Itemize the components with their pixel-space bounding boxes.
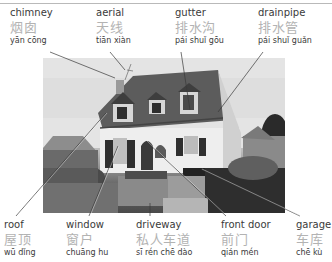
house-photo <box>43 58 285 213</box>
label-chinese: 天线 <box>96 21 131 37</box>
label-pinyin: chē kù <box>296 249 331 259</box>
label-chimney: chimney 烟囱 yān cōng <box>10 8 53 47</box>
label-drainpipe: drainpipe 排水管 pái shuǐ guǎn <box>258 8 312 47</box>
label-pinyin: pái shuǐ guǎn <box>258 37 312 47</box>
label-chinese: 前门 <box>221 233 271 249</box>
label-garage: garage 车库 chē kù <box>296 220 331 259</box>
label-chinese: 烟囱 <box>10 21 53 37</box>
label-pinyin: tiān xiàn <box>96 37 131 47</box>
label-chinese: 屋顶 <box>4 233 36 249</box>
label-chinese: 排水沟 <box>175 21 224 37</box>
label-pinyin: pái shuǐ gōu <box>175 37 224 47</box>
label-pinyin: wū dǐng <box>4 249 36 259</box>
label-window: window 窗户 chuāng hu <box>66 220 108 259</box>
label-pinyin: qián mén <box>221 249 271 259</box>
label-roof: roof 屋顶 wū dǐng <box>4 220 36 259</box>
label-chinese: 窗户 <box>66 233 108 249</box>
label-aerial: aerial 天线 tiān xiàn <box>96 8 131 47</box>
label-pinyin: sī rén chē dào <box>136 249 192 259</box>
label-front-door: front door 前门 qián mén <box>221 220 271 259</box>
label-chinese: 车库 <box>296 233 331 249</box>
label-gutter: gutter 排水沟 pái shuǐ gōu <box>175 8 224 47</box>
label-chinese: 私人车道 <box>136 233 192 249</box>
house-illustration <box>43 58 285 213</box>
label-chinese: 排水管 <box>258 21 312 37</box>
label-pinyin: yān cōng <box>10 37 53 47</box>
top-rule <box>0 3 332 4</box>
label-driveway: driveway 私人车道 sī rén chē dào <box>136 220 192 259</box>
label-pinyin: chuāng hu <box>66 249 108 259</box>
